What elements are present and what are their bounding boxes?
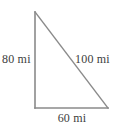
base-label: 60 mi [36, 112, 108, 125]
vertical-leg-label: 80 mi [2, 53, 31, 66]
hypotenuse-label: 100 mi [75, 53, 110, 66]
triangle-figure: 80 mi 100 mi 60 mi [0, 0, 118, 130]
